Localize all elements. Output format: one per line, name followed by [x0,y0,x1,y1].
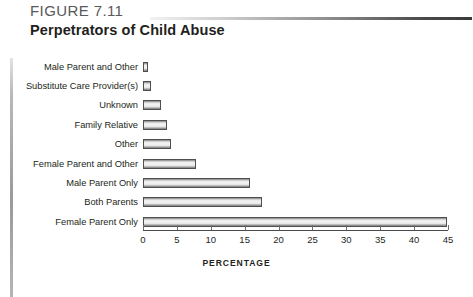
chart-bar-row: Other [0,135,473,154]
chart-bar-row: Female Parent and Other [0,154,473,173]
x-axis-tick-label: 45 [443,234,454,245]
x-axis-tick [380,225,381,230]
chart-bar [143,81,151,91]
chart-bar [143,62,148,72]
bar-category-label: Female Parent and Other [33,159,138,169]
chart-title: Perpetrators of Child Abuse [30,22,225,38]
x-axis-tick-label: 30 [341,234,352,245]
x-axis-tick [245,225,246,230]
chart-bar [143,139,171,149]
bar-category-label: Family Relative [74,120,138,130]
bar-category-label: Substitute Care Provider(s) [26,81,138,91]
x-axis-tick-label: 25 [307,234,318,245]
chart-bar-row: Male Parent Only [0,173,473,192]
x-axis-title: PERCENTAGE [0,258,473,268]
chart-bar-row: Family Relative [0,115,473,134]
chart-bar-row: Substitute Care Provider(s) [0,76,473,95]
x-axis-tick [346,225,347,230]
figure-number-label: FIGURE 7.11 [30,2,123,19]
chart-bar-row: Male Parent and Other [0,57,473,76]
chart-bar-row: Female Parent Only [0,212,473,231]
x-axis-tick [177,225,178,230]
header-gradient-rule [150,17,472,20]
bar-category-label: Unknown [99,100,138,110]
x-axis-tick-label: 0 [140,234,145,245]
x-axis-tick [143,225,144,230]
chart-plot-area: Male Parent and OtherSubstitute Care Pro… [0,55,473,230]
x-axis-tick-label: 40 [409,234,420,245]
bar-category-label: Male Parent and Other [44,62,138,72]
source-note [30,289,450,297]
x-axis-tick-label: 35 [375,234,386,245]
x-axis-tick [414,225,415,230]
bar-category-label: Female Parent Only [55,217,138,227]
x-axis-tick [211,225,212,230]
chart-bar [143,120,167,130]
chart-bar [143,159,196,169]
x-axis-tick-label: 5 [174,234,179,245]
bar-category-label: Other [115,139,138,149]
chart-bar-row: Unknown [0,96,473,115]
chart-bar [143,217,447,227]
chart-bar-row: Both Parents [0,193,473,212]
x-axis-tick [312,225,313,230]
x-axis-line [143,230,448,231]
x-axis-tick-label: 20 [273,234,284,245]
x-axis-tick [448,225,449,230]
bar-category-label: Male Parent Only [66,178,138,188]
x-axis-tick-label: 10 [205,234,216,245]
x-axis-tick [279,225,280,230]
bar-category-label: Both Parents [84,197,138,207]
x-axis-tick-label: 15 [239,234,250,245]
chart-bar [143,197,262,207]
chart-bar [143,100,161,110]
chart-bar [143,178,250,188]
